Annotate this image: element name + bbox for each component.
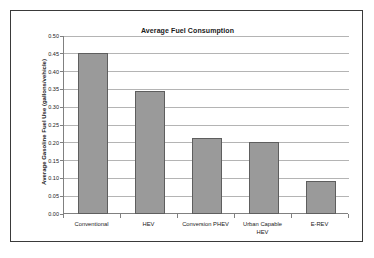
gridline xyxy=(64,36,349,37)
x-axis-tick-mark xyxy=(291,214,292,218)
bar xyxy=(135,91,165,214)
y-axis-tick-label: 0.35 xyxy=(33,86,59,92)
y-axis-tick-mark xyxy=(60,178,63,179)
x-axis-tick-mark xyxy=(63,214,64,218)
x-axis-tick-mark xyxy=(348,214,349,218)
x-axis-tick-label: Urban CapableHEV xyxy=(234,220,291,236)
x-axis-tick-label-line: E-REV xyxy=(291,220,348,228)
chart-frame: Average Fuel Consumption Average Gasolin… xyxy=(10,10,363,242)
y-axis-tick-mark xyxy=(60,196,63,197)
x-axis-tick-label-line: Conversion PHEV xyxy=(177,220,234,228)
y-axis-tick-label: 0.40 xyxy=(33,69,59,75)
x-axis-tick-label: E-REV xyxy=(291,220,348,228)
y-axis-tick-mark xyxy=(60,53,63,54)
x-axis-tick-label-line: HEV xyxy=(120,220,177,228)
bar xyxy=(249,142,279,214)
x-axis-tick-mark xyxy=(177,214,178,218)
x-axis-tick-mark xyxy=(120,214,121,218)
y-axis-tick-mark xyxy=(60,142,63,143)
y-axis-tick-label: 0.15 xyxy=(33,158,59,164)
bar xyxy=(192,138,222,214)
y-axis-tick-label: 0.45 xyxy=(33,51,59,57)
bar xyxy=(306,181,336,214)
y-axis-tick-labels: 0.000.050.100.150.200.250.300.350.400.45… xyxy=(29,36,59,214)
y-axis-tick-mark xyxy=(60,89,63,90)
y-axis-tick-label: 0.20 xyxy=(33,140,59,146)
x-axis-tick-label-line: Conventional xyxy=(63,220,120,228)
y-axis-tick-label: 0.25 xyxy=(33,122,59,128)
y-axis-tick-label: 0.30 xyxy=(33,104,59,110)
y-axis-tick-mark xyxy=(60,36,63,37)
y-axis-tick-label: 0.00 xyxy=(33,211,59,217)
chart-title: Average Fuel Consumption xyxy=(11,27,364,34)
y-axis-tick-label: 0.50 xyxy=(33,33,59,39)
x-axis-tick-mark xyxy=(234,214,235,218)
y-axis-tick-mark xyxy=(60,107,63,108)
y-axis-tick-mark xyxy=(60,125,63,126)
y-axis-tick-label: 0.10 xyxy=(33,175,59,181)
x-axis-tick-label: Conventional xyxy=(63,220,120,228)
y-axis-tick-mark xyxy=(60,71,63,72)
y-axis-tick-label: 0.05 xyxy=(33,193,59,199)
y-axis-tick-mark xyxy=(60,160,63,161)
plot-area xyxy=(63,36,348,214)
chart-figure: Average Fuel Consumption Average Gasolin… xyxy=(0,0,374,258)
bar xyxy=(78,53,108,214)
x-axis-tick-label: Conversion PHEV xyxy=(177,220,234,228)
x-axis-tick-label: HEV xyxy=(120,220,177,228)
x-axis-tick-label-line: Urban Capable xyxy=(234,220,291,228)
x-axis-tick-label-line: HEV xyxy=(234,228,291,236)
